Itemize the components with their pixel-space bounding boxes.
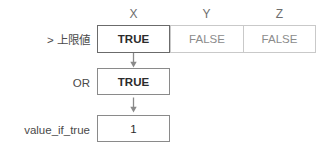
truth-table-row: TRUE FALSE FALSE — [97, 25, 316, 53]
logic-flow-diagram: X Y Z > 上限値 TRUE FALSE FALSE OR TRUE val… — [0, 0, 327, 153]
row-label-or: OR — [0, 74, 97, 92]
arrow-down-icon — [126, 52, 141, 68]
row-label-upper-limit: > 上限値 — [0, 31, 97, 49]
arrow-down-icon — [126, 97, 141, 113]
truth-cell-y: FALSE — [170, 25, 243, 53]
or-result-box: TRUE — [97, 68, 170, 95]
column-header-z: Z — [243, 6, 316, 22]
truth-cell-x: TRUE — [97, 25, 170, 53]
column-header-y: Y — [170, 6, 243, 22]
value-if-true-box: 1 — [97, 115, 170, 142]
row-label-value-if-true: value_if_true — [0, 121, 97, 139]
column-header-x: X — [97, 6, 170, 22]
truth-cell-z: FALSE — [243, 25, 316, 53]
